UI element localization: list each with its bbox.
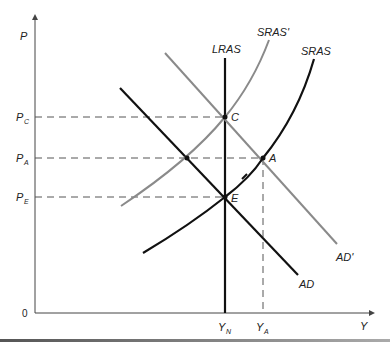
point-c-label: C [231, 111, 239, 123]
ad-prime-label: AD' [335, 251, 354, 263]
bottom-divider [0, 339, 390, 342]
svg-text:A: A [263, 328, 269, 335]
x-axis-label: Y [360, 320, 368, 332]
ya-label: Y A [256, 321, 269, 335]
svg-text:A: A [23, 159, 29, 166]
svg-text:P: P [16, 191, 24, 203]
ad-prime-curve [165, 53, 337, 244]
svg-text:P: P [16, 111, 24, 123]
ad-label: AD [298, 278, 314, 290]
ad-pa-intersection-dot [185, 156, 190, 161]
svg-text:N: N [226, 328, 232, 335]
pc-label: P C [16, 111, 30, 125]
point-e-label: E [231, 192, 239, 204]
y-axis-label: P [20, 30, 28, 42]
svg-text:C: C [24, 118, 30, 125]
as-ad-diagram: P Y 0 P C P A P E Y N Y A LRAS SRAS' SRA… [0, 0, 390, 344]
pa-label: P A [16, 152, 29, 166]
svg-text:Y: Y [256, 321, 264, 333]
sras-prime-curve [121, 40, 269, 206]
point-e-dot [223, 195, 228, 200]
svg-text:Y: Y [218, 321, 226, 333]
sras-curve [143, 59, 314, 253]
lras-label: LRAS [212, 43, 241, 55]
sras-prime-label: SRAS' [257, 26, 290, 38]
point-a-label: A [268, 152, 276, 164]
pe-label: P E [16, 191, 29, 205]
sras-label: SRAS [301, 45, 332, 57]
yn-label: Y N [218, 321, 232, 335]
point-a-dot [261, 156, 266, 161]
ad-curve [120, 88, 298, 275]
point-c-dot [223, 115, 228, 120]
svg-text:P: P [16, 152, 24, 164]
origin-label: 0 [22, 308, 28, 319]
svg-text:E: E [24, 198, 29, 205]
